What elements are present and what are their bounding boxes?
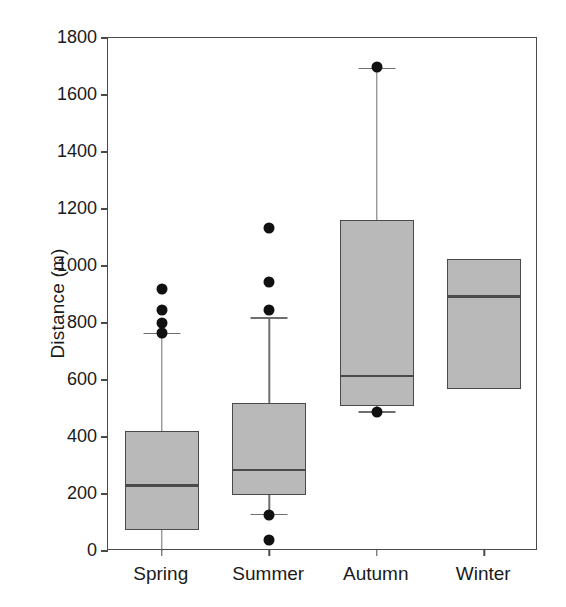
y-tick-mark xyxy=(101,493,108,494)
median-line-autumn xyxy=(340,375,414,377)
box-spring xyxy=(125,431,199,529)
y-tick-label: 0 xyxy=(27,540,97,561)
plot-inner xyxy=(108,38,536,549)
y-tick-label: 200 xyxy=(27,483,97,504)
y-tick-label: 400 xyxy=(27,426,97,447)
outlier-point-spring xyxy=(156,305,167,316)
outlier-point-summer xyxy=(264,305,275,316)
outlier-point-summer xyxy=(264,534,275,545)
y-tick-mark xyxy=(101,265,108,266)
median-line-spring xyxy=(125,484,199,486)
whisker-lower-spring xyxy=(161,530,162,551)
box-winter xyxy=(447,259,521,389)
y-tick-mark xyxy=(101,436,108,437)
box-autumn xyxy=(340,220,414,405)
outlier-point-autumn xyxy=(371,406,382,417)
y-tick-label: 1800 xyxy=(27,27,97,48)
x-tick-mark xyxy=(376,549,377,556)
y-tick-mark xyxy=(101,550,108,551)
y-tick-mark xyxy=(101,151,108,152)
x-tick-mark xyxy=(269,549,270,556)
whisker-upper-autumn xyxy=(376,68,377,220)
y-tick-mark xyxy=(101,94,108,95)
whisker-upper-spring xyxy=(161,333,162,431)
chart-root: Distance (m) 020040060080010001200140016… xyxy=(0,0,566,607)
whisker-upper-summer xyxy=(269,317,270,403)
outlier-point-spring xyxy=(156,283,167,294)
y-tick-label: 1200 xyxy=(27,198,97,219)
y-tick-mark xyxy=(101,37,108,38)
outlier-point-summer xyxy=(264,222,275,233)
outlier-point-spring xyxy=(156,327,167,338)
y-tick-label: 1000 xyxy=(27,255,97,276)
x-tick-label-autumn: Autumn xyxy=(343,563,408,585)
plot-area xyxy=(107,37,537,550)
y-tick-label: 1400 xyxy=(27,141,97,162)
y-tick-mark xyxy=(101,208,108,209)
outlier-point-summer xyxy=(264,276,275,287)
outlier-point-spring xyxy=(156,318,167,329)
x-tick-label-summer: Summer xyxy=(232,563,304,585)
x-tick-label-spring: Spring xyxy=(133,563,188,585)
outlier-point-autumn xyxy=(371,61,382,72)
y-tick-mark xyxy=(101,379,108,380)
outlier-point-summer xyxy=(264,510,275,521)
y-tick-label: 600 xyxy=(27,369,97,390)
x-tick-mark xyxy=(484,549,485,556)
median-line-summer xyxy=(232,469,306,471)
whisker-cap-upper-summer xyxy=(251,317,288,318)
x-tick-label-winter: Winter xyxy=(456,563,511,585)
y-tick-label: 1600 xyxy=(27,84,97,105)
y-tick-label: 800 xyxy=(27,312,97,333)
box-summer xyxy=(232,403,306,496)
y-tick-mark xyxy=(101,322,108,323)
median-line-winter xyxy=(447,295,521,297)
